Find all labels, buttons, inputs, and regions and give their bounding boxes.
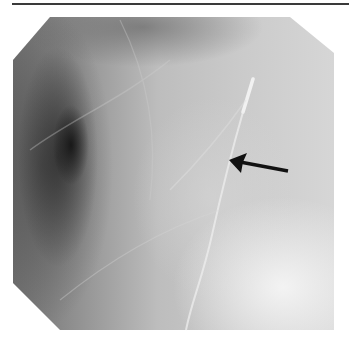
annotation-layer: [0, 0, 349, 345]
catheter-wire: [170, 79, 253, 330]
annotation-arrow-icon: [229, 153, 288, 173]
vessel-traces: [30, 20, 220, 300]
